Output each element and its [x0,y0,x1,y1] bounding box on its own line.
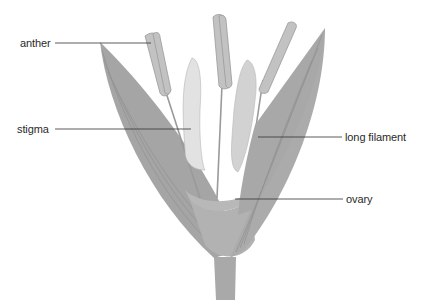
label-long-filament: long filament [345,131,406,143]
label-anther: anther [20,37,51,49]
label-ovary: ovary [346,193,372,205]
label-stigma: stigma [17,123,49,135]
stigma-left [183,58,205,170]
flower-diagram: anther stigma long filament ovary [0,0,423,308]
flower-illustration [0,0,423,308]
stem [214,257,236,300]
anther-center [213,14,232,88]
anther-left [145,33,171,96]
